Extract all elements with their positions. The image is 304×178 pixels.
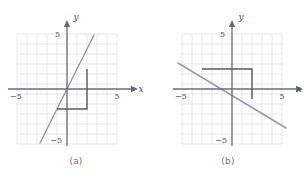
axes-a xyxy=(8,27,131,146)
caption-a: (a) xyxy=(0,156,152,166)
y-tick-negative-b: −5 xyxy=(215,136,227,145)
y-axis-arrow-a xyxy=(64,20,70,27)
caption-b: (b) xyxy=(152,156,304,166)
y-axis-label-a: y xyxy=(72,12,79,22)
x-tick-negative-b: −5 xyxy=(175,92,187,101)
y-axis-label-b: y xyxy=(237,12,244,22)
y-axis-arrow-b xyxy=(229,20,235,27)
x-tick-positive-b: 5 xyxy=(279,92,284,101)
panel-a: x y −5 5 5 −5 (a) xyxy=(0,0,152,178)
y-tick-negative-a: −5 xyxy=(50,136,62,145)
x-tick-positive-a: 5 xyxy=(114,92,119,101)
x-axis-arrow-a xyxy=(131,86,138,92)
y-tick-positive-b: 5 xyxy=(220,30,225,39)
y-tick-positive-a: 5 xyxy=(55,30,60,39)
coordinate-plane-a: x y −5 5 5 −5 xyxy=(0,0,152,160)
math-figure-two-coordinate-planes: x y −5 5 5 −5 (a) xyxy=(0,0,304,178)
panel-b: x y −5 5 5 −5 (b) xyxy=(152,0,304,178)
coordinate-plane-b: x y −5 5 5 −5 xyxy=(152,0,304,160)
x-axis-label-a: x xyxy=(138,84,143,94)
x-tick-negative-a: −5 xyxy=(10,92,22,101)
x-axis-label-b: x xyxy=(296,84,301,94)
axes-b xyxy=(173,27,296,146)
